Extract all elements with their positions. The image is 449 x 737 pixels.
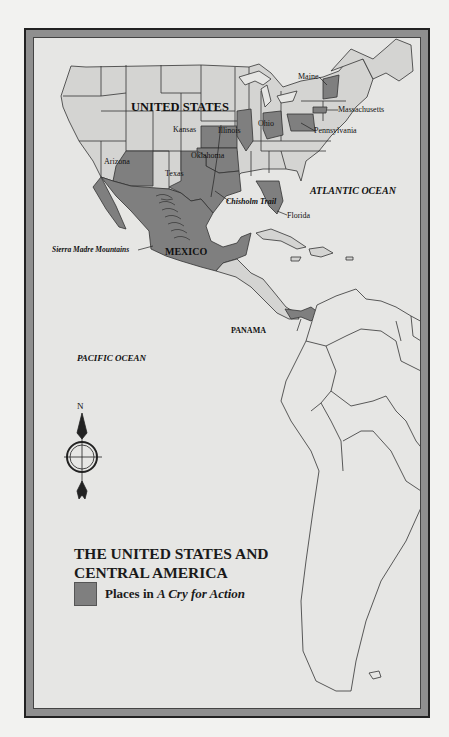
label-panama: PANAMA — [231, 327, 266, 335]
falkland-islands — [369, 671, 381, 679]
label-texas: Texas — [165, 170, 184, 178]
compass-north-arrow — [77, 413, 87, 439]
cuba — [256, 229, 306, 249]
state-massachusetts — [313, 107, 327, 113]
map-title: THE UNITED STATES AND CENTRAL AMERICA — [74, 544, 269, 582]
compass-tail — [77, 481, 87, 499]
label-florida: Florida — [287, 212, 310, 220]
label-massachusetts: Massachusetts — [338, 106, 384, 114]
legend-swatch — [74, 582, 97, 606]
hispaniola — [309, 247, 333, 257]
south-america — [281, 289, 421, 691]
compass-north-label: N — [77, 402, 84, 411]
label-arizona: Arizona — [104, 158, 130, 166]
compass-rose — [64, 413, 102, 499]
map-title-line1: THE UNITED STATES AND — [74, 544, 269, 563]
label-united-states: UNITED STATES — [131, 101, 229, 114]
map-title-line2: CENTRAL AMERICA — [74, 563, 269, 582]
label-sierra-madre: Sierra Madre Mountains — [52, 246, 129, 254]
label-kansas: Kansas — [173, 126, 196, 134]
label-maine: Maine — [298, 73, 318, 81]
jamaica — [291, 257, 353, 261]
label-pacific-ocean: PACIFIC OCEAN — [77, 354, 146, 363]
panama-leader — [297, 319, 301, 331]
map-legend: Places in A Cry for Action — [74, 582, 245, 606]
label-atlantic-ocean: ATLANTIC OCEAN — [310, 186, 396, 196]
legend-label-book-title: A Cry for Action — [157, 586, 245, 601]
state-maine — [323, 75, 339, 99]
map-svg — [34, 38, 421, 709]
label-ohio: Ohio — [258, 120, 274, 128]
legend-label-prefix: Places in — [105, 586, 157, 601]
label-mexico: MEXICO — [165, 247, 207, 257]
florida-leader — [277, 211, 287, 215]
label-oklahoma: Oklahoma — [191, 152, 224, 160]
label-chisholm-trail: Chisholm Trail — [226, 198, 276, 206]
legend-label: Places in A Cry for Action — [105, 586, 245, 602]
label-illinois: Illinois — [218, 127, 241, 135]
map-canvas — [33, 37, 421, 709]
label-pennsylvania: Pennsylvania — [314, 127, 357, 135]
